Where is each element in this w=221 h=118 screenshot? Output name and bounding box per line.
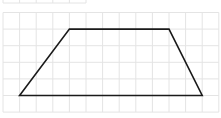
- top-partial-grid: [3, 0, 86, 3]
- trapezoid-grid-diagram: [0, 0, 221, 118]
